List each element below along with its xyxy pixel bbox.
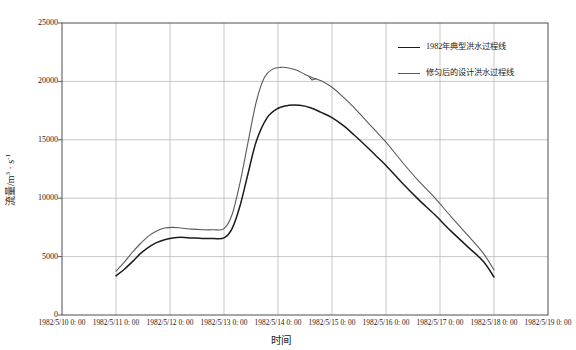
y-tick-label: 5000 (12, 253, 58, 261)
y-axis-title-prefix: 流量/m (5, 176, 16, 207)
legend-line-swatch (398, 73, 420, 74)
legend-item: 修匀后的设计洪水过程线 (398, 64, 548, 82)
y-axis-title-middle: · s (5, 160, 16, 172)
y-tick-label: 10000 (12, 194, 58, 202)
series-line (116, 67, 494, 271)
y-tick-label: 20000 (12, 77, 58, 85)
y-axis-title-exponent-2: -1 (4, 154, 12, 160)
y-tick-label: 15000 (12, 136, 58, 144)
legend: 1982年典型洪水过程线修匀后的设计洪水过程线 (398, 38, 548, 90)
legend-line-swatch (398, 47, 420, 48)
legend-label: 1982年典型洪水过程线 (426, 42, 506, 52)
legend-label: 修匀后的设计洪水过程线 (426, 68, 514, 78)
x-tick-label: 1982/5/19 0: 00 (503, 318, 576, 328)
y-axis-title-exponent-1: 3 (4, 172, 12, 176)
data-series-group (116, 67, 494, 277)
x-axis-title: 时间 (0, 332, 561, 347)
x-axis-tick-labels: 1982/5/10 0: 001982/5/11 0: 001982/5/12 … (0, 318, 561, 330)
legend-item: 1982年典型洪水过程线 (398, 38, 548, 56)
y-axis-title: 流量/m3 · s-1 (0, 120, 16, 240)
y-axis-tick-labels: 0500010000150002000025000 (12, 0, 58, 350)
y-tick-label: 25000 (12, 19, 58, 27)
series-line (116, 105, 494, 277)
axis-tick-marks (58, 23, 62, 315)
